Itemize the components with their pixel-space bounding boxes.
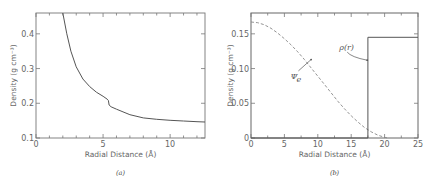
series-density xyxy=(63,13,205,122)
y-tick-label: 0.15 xyxy=(231,30,249,39)
x-tick-label: 5 xyxy=(282,140,287,149)
y-axis-title-a: Density (g cm⁻³) xyxy=(9,44,18,106)
figure: 05100.10.20.30.4 Radial Distance (Å) Den… xyxy=(0,0,434,183)
plot-frame-a xyxy=(36,13,205,138)
x-tick-label: 5 xyxy=(101,140,106,149)
series-group-b xyxy=(251,22,418,138)
psi-e-subscript: e xyxy=(296,75,301,84)
x-tick-label: 20 xyxy=(380,140,390,149)
rho-arrow xyxy=(347,52,367,60)
rho-arrow-head xyxy=(366,59,368,61)
x-tick-label: 0 xyxy=(248,140,253,149)
series-psi-e xyxy=(251,22,388,138)
x-axis-title-b: Radial Distance (Å) xyxy=(299,150,371,159)
y-tick-label: 0.3 xyxy=(21,65,34,74)
chart-panel-a: 05100.10.20.30.4 Radial Distance (Å) Den… xyxy=(9,13,205,177)
y-tick-label: 0.1 xyxy=(21,134,34,143)
series-density-curve xyxy=(63,13,205,122)
annotations-b: Ψeρ(r) xyxy=(290,43,368,84)
caption-a: (a) xyxy=(116,169,125,177)
caption-b: (b) xyxy=(330,169,340,177)
x-axis-title-a: Radial Distance (Å) xyxy=(85,150,157,159)
x-tick-label: 15 xyxy=(346,140,356,149)
tick-labels-b: 051015202500.050.100.15 xyxy=(231,30,423,149)
y-tick-label: 0.2 xyxy=(21,99,34,108)
psi-arrow-head xyxy=(310,59,312,61)
x-tick-label: 10 xyxy=(313,140,323,149)
psi-arrow xyxy=(298,60,311,71)
y-tick-label: 0 xyxy=(244,134,249,143)
series-rho-r xyxy=(251,37,418,138)
chart-panel-b: 051015202500.050.100.15 Ψeρ(r) Radial Di… xyxy=(226,13,423,177)
x-tick-label: 0 xyxy=(33,140,38,149)
y-axis-title-b: Density (g cm⁻³) xyxy=(226,44,235,106)
tick-labels-a: 05100.10.20.30.4 xyxy=(21,30,175,149)
y-tick-label: 0.4 xyxy=(21,30,34,39)
x-tick-label: 10 xyxy=(165,140,175,149)
rho-r-label: ρ(r) xyxy=(338,43,354,52)
x-tick-label: 25 xyxy=(413,140,423,149)
axis-ticks-a xyxy=(36,13,205,138)
